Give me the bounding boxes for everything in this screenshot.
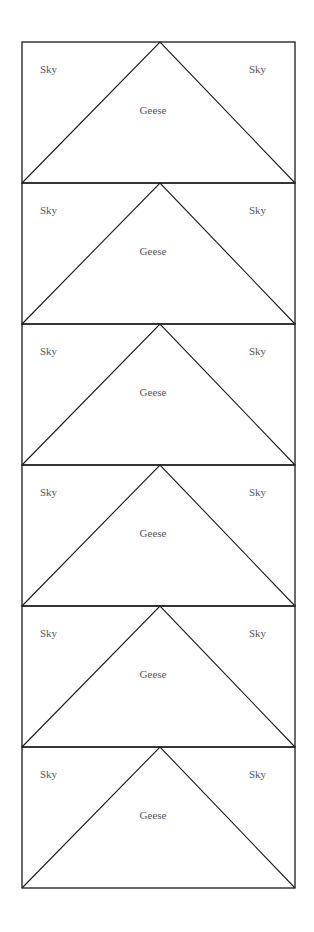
geese-label: Geese (140, 527, 167, 539)
sky-right-label: Sky (249, 345, 267, 357)
geese-label: Geese (140, 245, 167, 257)
geese-label: Geese (140, 386, 167, 398)
sky-left-label: Sky (40, 486, 58, 498)
sky-left-label: Sky (40, 768, 58, 780)
sky-right-label: Sky (249, 627, 267, 639)
sky-right-label: Sky (249, 486, 267, 498)
geese-block: Sky Geese Sky (22, 465, 295, 606)
geese-block: Sky Geese Sky (22, 606, 295, 747)
geese-label: Geese (140, 104, 167, 116)
geese-label: Geese (140, 809, 167, 821)
geese-block: Sky Geese Sky (22, 324, 295, 465)
geese-block: Sky Geese Sky (22, 747, 295, 888)
geese-block: Sky Geese Sky (22, 42, 295, 183)
sky-right-label: Sky (249, 768, 267, 780)
flying-geese-diagram: Sky Geese Sky Sky Geese Sky Sky Geese Sk… (0, 0, 314, 932)
geese-block: Sky Geese Sky (22, 183, 295, 324)
sky-left-label: Sky (40, 204, 58, 216)
sky-left-label: Sky (40, 345, 58, 357)
sky-left-label: Sky (40, 627, 58, 639)
geese-label: Geese (140, 668, 167, 680)
sky-right-label: Sky (249, 204, 267, 216)
sky-left-label: Sky (40, 63, 58, 75)
sky-right-label: Sky (249, 63, 267, 75)
